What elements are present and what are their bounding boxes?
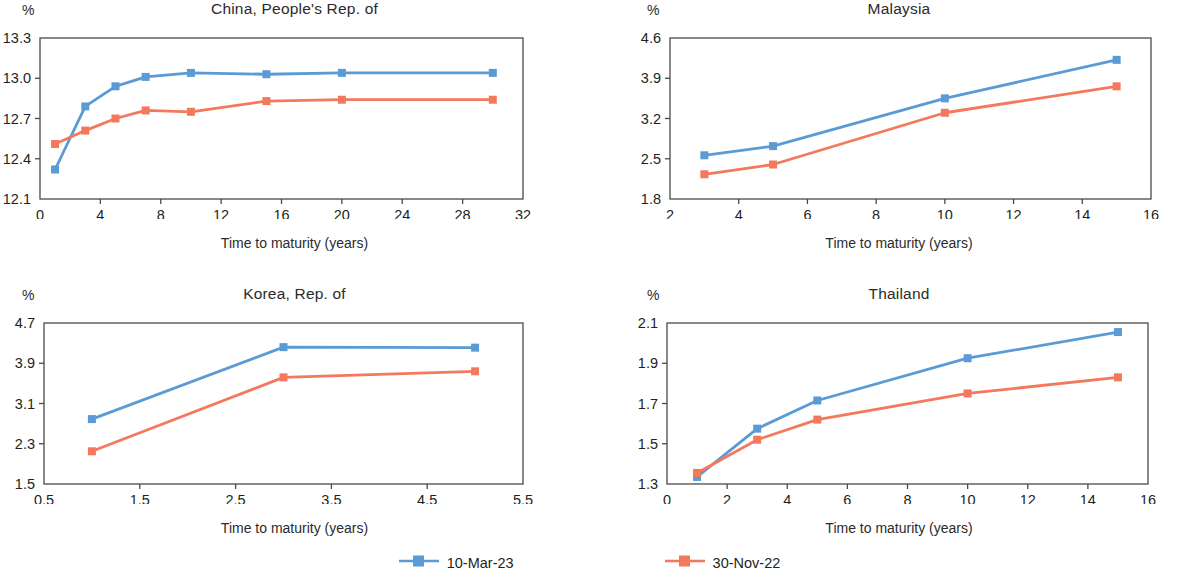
x-axis-label-thailand: Time to maturity (years) <box>620 520 1178 536</box>
data-point-marker <box>88 415 96 423</box>
data-point-marker <box>1113 82 1121 90</box>
data-point-marker <box>769 142 777 150</box>
x-tick-label: 0 <box>663 492 671 504</box>
y-tick-label: 4.7 <box>15 315 35 331</box>
data-point-marker <box>262 70 270 78</box>
y-axis-label-thailand: % <box>647 287 659 303</box>
x-tick-label: 28 <box>455 207 471 219</box>
legend-item-30-nov-22[interactable]: 30-Nov-22 <box>664 554 781 572</box>
data-point-marker <box>1113 56 1121 64</box>
plot-area-thailand: 1.31.51.71.92.10246810121416 <box>620 309 1178 504</box>
x-tick-label: 10 <box>937 207 953 219</box>
x-tick-label: 8 <box>157 207 165 219</box>
y-tick-label: 12.7 <box>3 111 31 127</box>
chart-title-korea: Korea, Rep. of <box>0 285 589 303</box>
data-point-marker <box>88 447 96 455</box>
x-axis-label-china: Time to maturity (years) <box>0 235 589 251</box>
chart-title-thailand: Thailand <box>620 285 1178 303</box>
x-tick-label: 8 <box>872 207 880 219</box>
x-tick-label: 12 <box>1020 492 1036 504</box>
y-axis-label-china: % <box>22 2 34 18</box>
data-point-marker <box>700 170 708 178</box>
data-point-marker <box>813 416 821 424</box>
x-tick-label: 32 <box>515 207 531 219</box>
data-point-marker <box>769 161 777 169</box>
data-point-marker <box>142 73 150 81</box>
x-tick-label: 5.5 <box>513 492 533 504</box>
x-tick-label: 4 <box>96 207 104 219</box>
y-axis-label-malaysia: % <box>647 2 659 18</box>
x-tick-label: 3.5 <box>321 492 341 504</box>
x-tick-label: 2.5 <box>226 492 246 504</box>
x-tick-label: 20 <box>334 207 350 219</box>
x-tick-label: 14 <box>1074 207 1090 219</box>
data-point-marker <box>51 140 59 148</box>
data-point-marker <box>81 127 89 135</box>
y-tick-label: 12.4 <box>3 151 31 167</box>
data-point-marker <box>813 396 821 404</box>
x-tick-label: 16 <box>1143 207 1159 219</box>
data-point-marker <box>81 102 89 110</box>
x-tick-label: 14 <box>1080 492 1096 504</box>
series-line <box>92 347 475 419</box>
data-point-marker <box>941 94 949 102</box>
data-point-marker <box>142 106 150 114</box>
x-tick-label: 1.5 <box>130 492 150 504</box>
legend-label: 30-Nov-22 <box>713 555 781 571</box>
legend-swatch-icon <box>664 554 706 572</box>
y-tick-label: 3.1 <box>15 396 35 412</box>
x-tick-label: 0 <box>36 207 44 219</box>
series-line <box>55 73 493 170</box>
data-point-marker <box>964 389 972 397</box>
y-axis-label-korea: % <box>22 287 34 303</box>
chart-title-malaysia: Malaysia <box>620 0 1178 18</box>
x-tick-label: 12 <box>213 207 229 219</box>
data-point-marker <box>753 425 761 433</box>
chart-panel-korea: Korea, Rep. of % 1.52.33.13.94.70.51.52.… <box>0 285 589 550</box>
y-tick-label: 1.9 <box>638 355 658 371</box>
x-tick-label: 6 <box>803 207 811 219</box>
y-tick-label: 12.1 <box>3 191 31 207</box>
data-point-marker <box>187 108 195 116</box>
data-point-marker <box>753 436 761 444</box>
data-point-marker <box>338 96 346 104</box>
data-point-marker <box>941 109 949 117</box>
data-point-marker <box>338 69 346 77</box>
x-tick-label: 6 <box>843 492 851 504</box>
data-point-marker <box>187 69 195 77</box>
x-tick-label: 4 <box>783 492 791 504</box>
y-tick-label: 1.7 <box>638 396 658 412</box>
data-point-marker <box>111 115 119 123</box>
data-point-marker <box>693 469 701 477</box>
data-point-marker <box>964 354 972 362</box>
chart-panel-malaysia: Malaysia % 1.82.53.23.94.6246810121416 T… <box>620 0 1178 265</box>
data-point-marker <box>471 367 479 375</box>
y-tick-label: 3.2 <box>641 111 661 127</box>
data-point-marker <box>51 165 59 173</box>
legend-item-10-mar-23[interactable]: 10-Mar-23 <box>398 554 514 572</box>
x-tick-label: 4 <box>735 207 743 219</box>
y-tick-label: 2.1 <box>638 315 658 331</box>
x-tick-label: 16 <box>273 207 289 219</box>
y-tick-label: 13.3 <box>3 30 31 46</box>
data-point-marker <box>489 69 497 77</box>
y-tick-label: 1.3 <box>638 476 658 492</box>
x-tick-label: 16 <box>1140 492 1156 504</box>
chart-title-china: China, People's Rep. of <box>0 0 589 18</box>
chart-panel-thailand: Thailand % 1.31.51.71.92.10246810121416 … <box>620 285 1178 550</box>
x-axis-label-korea: Time to maturity (years) <box>0 520 589 536</box>
x-tick-label: 0.5 <box>34 492 54 504</box>
legend-label: 10-Mar-23 <box>447 555 514 571</box>
y-tick-label: 2.5 <box>641 151 661 167</box>
series-line <box>704 60 1116 155</box>
chart-legend: 10-Mar-23 30-Nov-22 <box>0 554 1178 572</box>
y-tick-label: 1.5 <box>15 476 35 492</box>
x-tick-label: 12 <box>1006 207 1022 219</box>
data-point-marker <box>280 373 288 381</box>
chart-panel-china: China, People's Rep. of % 12.112.412.713… <box>0 0 589 265</box>
plot-area-china: 12.112.412.713.013.3048121620242832 <box>0 24 589 219</box>
data-point-marker <box>489 96 497 104</box>
plot-area-malaysia: 1.82.53.23.94.6246810121416 <box>620 24 1178 219</box>
plot-area-korea: 1.52.33.13.94.70.51.52.53.54.55.5 <box>0 309 589 504</box>
series-line <box>92 371 475 451</box>
